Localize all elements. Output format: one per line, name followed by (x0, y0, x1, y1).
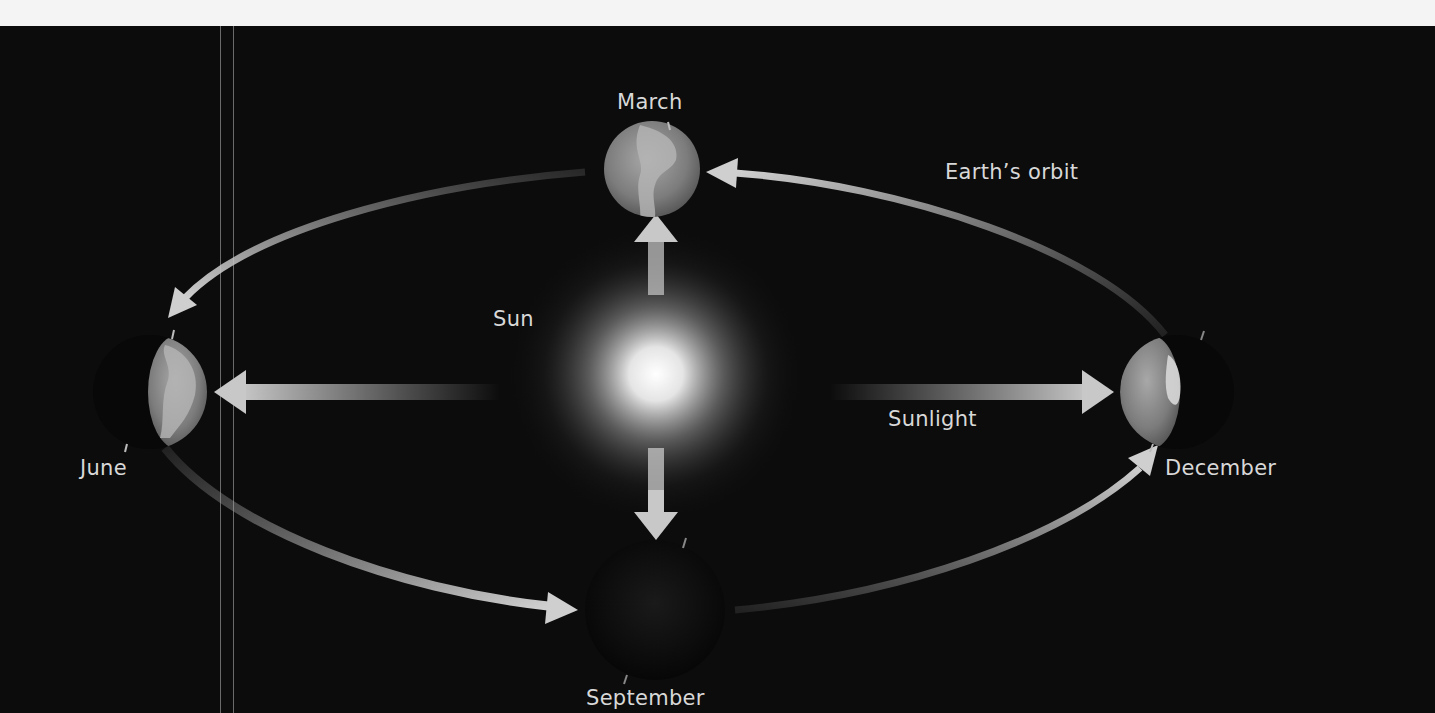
label-september: September (586, 686, 705, 710)
orbit-diagram (0, 0, 1435, 713)
earth-december (1120, 331, 1234, 452)
label-march: March (617, 90, 683, 114)
earth-march (604, 121, 700, 222)
arrow-right-icon (1082, 370, 1114, 414)
orbit-arrowhead-icon (545, 592, 578, 624)
label-earths-orbit: Earth’s orbit (945, 160, 1078, 184)
orbit-arrowhead-icon (706, 158, 738, 188)
arrow-down-icon (634, 512, 678, 540)
label-june: June (80, 456, 127, 480)
label-sun: Sun (493, 307, 534, 331)
arrow-left-icon (214, 370, 246, 414)
label-sunlight: Sunlight (888, 407, 977, 431)
earth-june (93, 330, 208, 452)
earth-september (585, 538, 725, 684)
label-december: December (1165, 456, 1276, 480)
